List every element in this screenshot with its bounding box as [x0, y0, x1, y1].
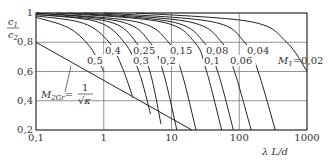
y-axis-label: c1 c2	[7, 16, 19, 42]
curve-label: 0,06	[230, 55, 252, 66]
svg-text:1: 1	[27, 7, 33, 18]
svg-text:1: 1	[101, 132, 107, 143]
svg-text:c1: c1	[8, 16, 18, 29]
curve-label: 0,4	[105, 45, 121, 56]
curve-label: 0,15	[170, 45, 192, 56]
svg-text:1: 1	[82, 82, 88, 93]
x-axis-label: λ L/d	[261, 146, 288, 157]
curve-label: 0,04	[247, 45, 269, 56]
m1-annotation: M1=0,02	[277, 55, 323, 68]
curve-label: 0,25	[133, 45, 155, 56]
x-axis-ticks: 0,11101001000	[28, 132, 320, 143]
svg-text:100: 100	[230, 132, 249, 143]
svg-text:√κ: √κ	[78, 95, 91, 106]
chart-canvas: 0,11101001000 0,20,40,60,81 0,50,40,30,2…	[0, 0, 329, 165]
svg-text:1000: 1000	[294, 132, 319, 143]
curve-m1-0-25	[36, 14, 161, 124]
m2gr-annotation: M2Gr= 1 √κ	[40, 66, 93, 106]
svg-text:0,2: 0,2	[17, 124, 33, 135]
grid-lines	[36, 13, 307, 130]
curve-label: 0,08	[206, 45, 228, 56]
curve-label: 0,3	[133, 55, 149, 66]
curve-label: 0,2	[160, 55, 176, 66]
y-axis-ticks: 0,20,40,60,81	[17, 7, 33, 135]
svg-text:10: 10	[165, 132, 178, 143]
svg-text:M2Gr=: M2Gr=	[40, 89, 73, 102]
svg-text:0,6: 0,6	[17, 66, 33, 77]
svg-text:c2: c2	[8, 29, 19, 42]
curve-label: 0,5	[87, 55, 103, 66]
svg-text:0,8: 0,8	[17, 36, 33, 47]
curve-labels: 0,50,40,30,250,20,150,10,080,060,04	[86, 45, 273, 66]
curve-label: 0,1	[204, 55, 220, 66]
svg-text:0,4: 0,4	[17, 95, 33, 106]
